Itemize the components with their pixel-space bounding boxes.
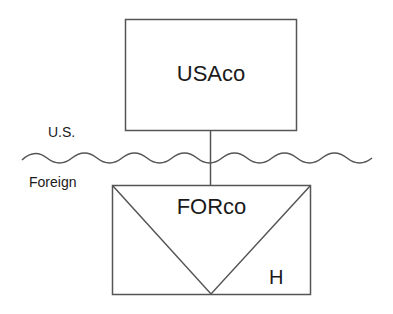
diagram-canvas bbox=[0, 0, 393, 314]
forco-label: FORco bbox=[112, 196, 311, 218]
border-wave-line bbox=[22, 153, 372, 163]
us-jurisdiction-label: U.S. bbox=[48, 125, 75, 139]
usaco-label: USAco bbox=[125, 63, 297, 85]
hybrid-marker-label: H bbox=[269, 267, 283, 287]
foreign-jurisdiction-label: Foreign bbox=[29, 175, 76, 189]
